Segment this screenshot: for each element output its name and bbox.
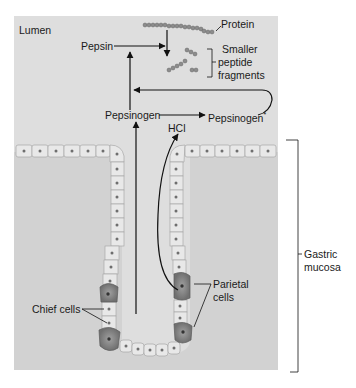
pepsinogen-star-label: Pepsinogen* (208, 109, 266, 124)
fragments-label-1: Smaller (222, 43, 258, 55)
surface-epithelium-right (185, 145, 276, 157)
parietal-cells-label-1: Parietal (213, 278, 249, 290)
fragments-label-3: fragments (218, 69, 265, 81)
hcl-label: HCl (168, 122, 186, 134)
surface-epithelium-left (16, 145, 110, 157)
gastric-mucosa-label-1: Gastric (304, 248, 337, 260)
pepsinogen-label: Pepsinogen (105, 109, 160, 121)
lumen-label: Lumen (19, 24, 51, 36)
chief-cells-label: Chief cells (32, 303, 80, 315)
gastric-mucosa-label-2: mucosa (304, 261, 341, 273)
gastric-pit-diagram: Lumen Pepsin Pepsinogen Pepsinogen* HCl … (0, 0, 356, 388)
fragments-label-2: peptide (218, 56, 252, 68)
pepsin-label: Pepsin (81, 40, 113, 52)
diagram-graphic (0, 0, 356, 388)
parietal-cells-label-2: cells (213, 291, 234, 303)
protein-label: Protein (221, 18, 254, 30)
